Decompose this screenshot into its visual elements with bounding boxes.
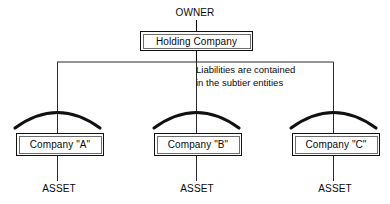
umbrella-arc-company-c	[291, 113, 376, 129]
liabilities-note-line-2: in the subtier entities	[196, 76, 295, 89]
holding-company-node: Holding Company	[140, 31, 253, 51]
liabilities-note: Liabilities are contained in the subtier…	[196, 63, 295, 89]
company-b-node: Company "B"	[154, 133, 242, 156]
asset-label-company-a: ASSET	[14, 183, 104, 195]
umbrella-arc-company-a	[15, 113, 100, 129]
asset-label-company-b: ASSET	[152, 183, 242, 195]
owner-label: OWNER	[0, 7, 390, 19]
company-c-label: Company "C"	[306, 139, 367, 150]
ownership-structure-diagram: OWNER Holding Company Liabilities are co…	[0, 0, 390, 204]
umbrella-arc-company-b	[154, 113, 239, 129]
company-a-node: Company "A"	[16, 133, 104, 156]
company-a-label: Company "A"	[30, 139, 90, 150]
asset-label-company-c: ASSET	[290, 183, 380, 195]
holding-company-label: Holding Company	[156, 36, 237, 47]
company-c-node: Company "C"	[292, 133, 380, 156]
liabilities-note-line-1: Liabilities are contained	[196, 63, 295, 76]
company-b-label: Company "B"	[168, 139, 228, 150]
